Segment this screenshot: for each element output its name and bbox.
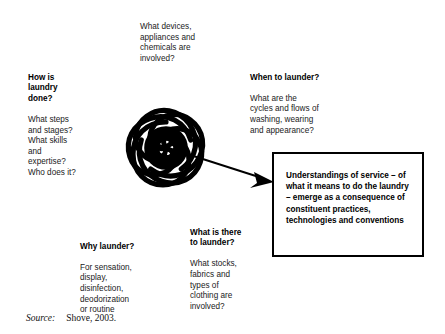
source-label: Source:	[26, 313, 55, 323]
question-block-what: What is there to launder? What stocks, f…	[190, 217, 264, 323]
question-block-devices: What devices, appliances and chemicals a…	[140, 1, 235, 75]
question-heading-how: How is laundry done?	[28, 73, 104, 105]
figure-canvas: What devices, appliances and chemicals a…	[0, 0, 445, 334]
question-body-how: What steps and stages? What skills and e…	[28, 115, 104, 179]
question-block-how: How is laundry done? What steps and stag…	[28, 62, 104, 189]
question-block-when: When to launder? What are the cycles and…	[250, 62, 360, 147]
question-body-what: What stocks, fabrics and types of clothi…	[190, 259, 264, 312]
source-line: Source:Shove, 2003.	[26, 313, 116, 323]
question-body-why: For sensation, display, disinfection, de…	[80, 263, 166, 316]
callout-text: Understandings of service – of what it m…	[286, 170, 414, 226]
question-body-when: What are the cycles and flows of washing…	[250, 94, 360, 136]
question-heading-when: When to launder?	[250, 73, 360, 84]
question-heading-what: What is there to launder?	[190, 228, 264, 249]
callout-box: Understandings of service – of what it m…	[272, 152, 424, 257]
question-heading-why: Why launder?	[80, 242, 166, 253]
question-body-devices: What devices, appliances and chemicals a…	[140, 22, 235, 64]
source-value: Shove, 2003.	[66, 313, 116, 323]
